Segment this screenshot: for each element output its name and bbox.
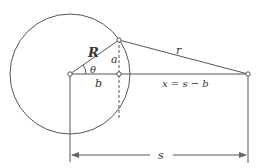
foot-point xyxy=(117,72,121,76)
label-b: b xyxy=(95,77,102,90)
label-theta: θ xyxy=(90,64,96,75)
geometry-diagram: R θ a b r x = s − b s xyxy=(0,0,259,168)
label-s: s xyxy=(158,149,164,162)
r-line xyxy=(119,40,248,74)
external-point xyxy=(246,72,250,76)
angle-arc xyxy=(83,65,86,74)
label-R: R xyxy=(87,45,99,60)
label-r: r xyxy=(176,44,182,57)
center-point xyxy=(68,72,72,76)
circle-point xyxy=(117,38,121,42)
label-a: a xyxy=(111,53,118,66)
label-x-expr: x = s − b xyxy=(162,78,209,89)
